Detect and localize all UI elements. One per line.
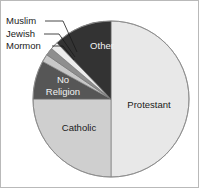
slice-label-no-religion-line2: Religion — [46, 86, 80, 97]
callout-label-jewish: Jewish — [6, 28, 35, 39]
callout-label-muslim: Muslim — [6, 15, 36, 26]
pie-chart-figure: Protestant Catholic No Religion Other Mu… — [0, 0, 199, 188]
slice-label-no-religion-line1: No — [57, 74, 69, 85]
slice-label-catholic: Catholic — [62, 122, 97, 133]
callout-label-mormon: Mormon — [6, 40, 41, 51]
callout-labels: Muslim Jewish Mormon — [6, 15, 41, 51]
slice-label-protestant: Protestant — [127, 99, 171, 110]
slice-label-other: Other — [90, 40, 114, 51]
pie-slice-catholic[interactable] — [33, 99, 111, 177]
pie-chart-svg: Protestant Catholic No Religion Other Mu… — [1, 1, 199, 188]
